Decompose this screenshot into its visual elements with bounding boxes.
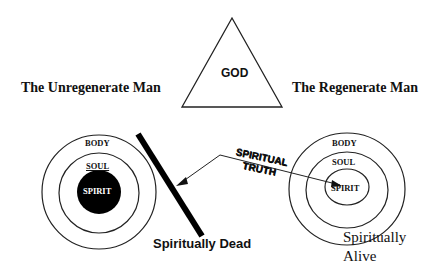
right-body-label: BODY xyxy=(332,138,357,148)
left-soul-label: SOUL xyxy=(86,161,109,171)
left-spirit-label: SPIRIT xyxy=(83,186,111,196)
god-label: GOD xyxy=(221,66,248,80)
right-soul-label: SOUL xyxy=(332,157,355,167)
god-triangle xyxy=(182,18,282,107)
unregenerate-title: The Unregenerate Man xyxy=(21,80,161,96)
spiritually-dead-label: Spiritually Dead xyxy=(153,236,251,251)
regenerate-title: The Regenerate Man xyxy=(292,80,418,96)
spiritually-alive-line1: Spiritually xyxy=(343,229,406,246)
spiritually-alive-line2: Alive xyxy=(343,248,376,265)
right-spirit-label: SPIRIT xyxy=(331,183,359,193)
left-body-label: BODY xyxy=(85,138,110,148)
